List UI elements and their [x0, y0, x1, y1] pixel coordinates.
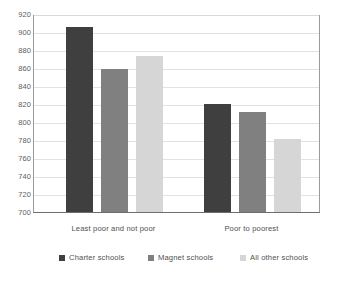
y-axis-tick-label: 860	[1, 65, 31, 73]
x-axis-category-label: Poor to poorest	[172, 224, 332, 234]
y-axis-tick-label: 780	[1, 137, 31, 145]
chart-legend: Charter schoolsMagnet schoolsAll other s…	[0, 253, 347, 267]
legend-swatch-icon	[59, 255, 65, 261]
legend-item[interactable]: All other schools	[240, 253, 308, 262]
y-axis-tick-label: 800	[1, 119, 31, 127]
bar	[239, 112, 266, 212]
gridline	[34, 15, 319, 16]
y-axis-tick-label: 740	[1, 173, 31, 181]
bar	[136, 56, 163, 212]
plot-area	[33, 15, 320, 213]
y-axis-tick-label: 720	[1, 191, 31, 199]
legend-item[interactable]: Charter schools	[59, 253, 124, 262]
legend-swatch-icon	[148, 255, 154, 261]
bar	[274, 139, 301, 212]
legend-label: Magnet schools	[158, 253, 213, 262]
y-axis-tick-labels: 920900880860840820800780760740720700	[0, 0, 31, 281]
bar-chart: 920900880860840820800780760740720700 Lea…	[0, 0, 347, 281]
legend-label: All other schools	[250, 253, 308, 262]
bar	[101, 69, 128, 212]
legend-label: Charter schools	[69, 253, 124, 262]
y-axis-tick-label: 700	[1, 209, 31, 217]
y-axis-tick-label: 880	[1, 47, 31, 55]
y-axis-tick-label: 900	[1, 29, 31, 37]
y-axis-tick-label: 820	[1, 101, 31, 109]
bar	[66, 27, 93, 212]
y-axis-tick-label: 760	[1, 155, 31, 163]
y-axis-tick-label: 840	[1, 83, 31, 91]
legend-swatch-icon	[240, 255, 246, 261]
legend-item[interactable]: Magnet schools	[148, 253, 213, 262]
y-axis-tick-label: 920	[1, 11, 31, 19]
x-axis-category-label: Least poor and not poor	[34, 224, 194, 234]
bar	[204, 104, 231, 212]
